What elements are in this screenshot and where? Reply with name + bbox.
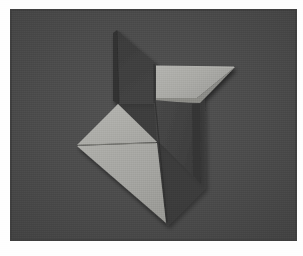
lower-blade-fold-band [192, 104, 201, 184]
photograph-frame [0, 0, 303, 256]
origami-shuriken-photograph [0, 0, 303, 256]
